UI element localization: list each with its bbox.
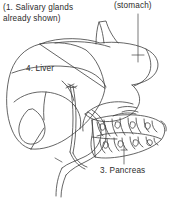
label-salivary-glands-line2: already shown) — [3, 14, 73, 25]
esophagus-shape — [96, 21, 118, 44]
label-pancreas: 3. Pancreas — [100, 166, 145, 177]
label-liver: 4. Liver — [26, 64, 54, 75]
stomach-shape — [40, 39, 158, 122]
anatomy-figure: (1. Salivary glands already shown) (stom… — [0, 0, 170, 199]
bile-duct-shape — [67, 85, 87, 169]
stomach-leader-line — [132, 14, 144, 62]
pancreatic-duct-shape — [92, 137, 117, 139]
label-stomach: (stomach) — [114, 1, 152, 12]
duodenum-tick — [55, 158, 62, 162]
label-salivary-glands: (1. Salivary glands already shown) — [3, 3, 73, 24]
label-salivary-glands-line1: (1. Salivary glands — [3, 3, 73, 14]
liver-shape — [7, 43, 106, 150]
gallbladder-shape — [19, 109, 45, 144]
